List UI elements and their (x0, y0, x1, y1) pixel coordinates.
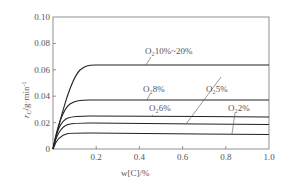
x-tick-08: 0.8 (220, 152, 232, 162)
label-o2-6: O₂6% (149, 103, 171, 113)
rate-vs-carbon-chart: 0 0.02 0.04 0.06 0.08 0.10 0.2 0.4 0.6 0… (0, 0, 290, 184)
x-tick-02: 0.2 (91, 152, 102, 162)
y-tick-006: 0.06 (34, 65, 50, 75)
y-axis-label: rC/g·min-1 (21, 81, 32, 118)
y-tick-010: 0.10 (34, 12, 50, 22)
x-tick-10: 1.0 (263, 152, 275, 162)
curve-o2-2 (53, 133, 269, 149)
label-o2-10-20: O₂10%~20% (145, 46, 193, 56)
y-tick-004: 0.04 (34, 91, 50, 101)
svg-text:rC/g·min-1: rC/g·min-1 (21, 81, 32, 118)
curve-o2-6 (53, 123, 269, 149)
y-axis (53, 43, 56, 122)
y-tick-002: 0.02 (34, 118, 50, 128)
y-tick-labels: 0 0.02 0.04 0.06 0.08 0.10 (34, 12, 50, 154)
x-tick-06: 0.6 (177, 152, 189, 162)
label-o2-8: O₂8% (143, 84, 165, 94)
x-tick-labels: 0.2 0.4 0.6 0.8 1.0 (91, 152, 276, 162)
series-labels: O₂10%~20% O₂8% O₂5% O₂6% O₂2% (143, 46, 250, 113)
x-axis (96, 146, 226, 149)
label-o2-2: O₂2% (228, 103, 250, 113)
x-tick-04: 0.4 (134, 152, 146, 162)
y-tick-008: 0.08 (34, 38, 50, 48)
y-tick-0: 0 (46, 144, 51, 154)
plot-frame (53, 17, 269, 149)
label-o2-5: O₂5% (206, 84, 228, 94)
x-axis-label: w[C]/% (121, 168, 150, 178)
leader-lines (146, 57, 235, 134)
